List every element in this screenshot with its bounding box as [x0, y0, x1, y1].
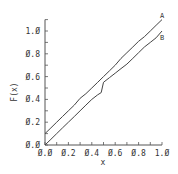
series-line-a: [45, 20, 162, 134]
y-tick-label: Ø.4: [26, 94, 41, 104]
y-tick-label: Ø.8: [26, 49, 41, 59]
x-tick-label: Ø.6: [108, 148, 123, 158]
plot-lines: [45, 20, 162, 145]
chart-canvas: Ø.ØØ.2Ø.4Ø.6Ø.81.ØØ.ØØ.2Ø.4Ø.6Ø.81.ØAB x…: [0, 0, 178, 174]
y-axis-label: F(x): [10, 82, 19, 101]
y-tick-label: 1.Ø: [26, 26, 41, 36]
x-tick-label: Ø.4: [85, 148, 100, 158]
x-tick-label: Ø.2: [61, 148, 76, 158]
y-tick-label: Ø.Ø: [26, 140, 41, 150]
x-tick-label: 1.Ø: [155, 148, 170, 158]
y-tick-label: Ø.6: [26, 72, 41, 82]
series-label-a: A: [160, 12, 165, 20]
series-label-b: B: [160, 34, 164, 42]
x-tick-label: Ø.8: [131, 148, 146, 158]
y-tick-label: Ø.2: [26, 117, 41, 127]
x-axis-label: x: [101, 158, 106, 167]
series-line-b: [45, 31, 162, 145]
